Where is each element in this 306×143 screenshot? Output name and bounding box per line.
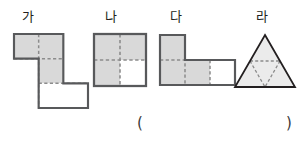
figure-label-da: 다	[170, 10, 182, 23]
figure-art-na	[94, 34, 146, 86]
answer-row: ( )	[0, 108, 306, 138]
cell-ga-1	[39, 34, 64, 59]
figure-art-ga	[14, 34, 88, 108]
cell-da-2	[185, 60, 210, 85]
figure-art-da	[160, 34, 235, 86]
triangle-fill-ra	[235, 35, 295, 87]
cell-da-1	[160, 60, 185, 85]
answer-close-paren: )	[286, 116, 292, 131]
cell-ga-0	[14, 34, 39, 59]
cell-ga-2	[39, 59, 64, 84]
figure-label-ga: 가	[22, 10, 34, 23]
worksheet-canvas: 가 나	[0, 0, 306, 143]
cell-na-1	[120, 34, 146, 60]
figure-label-ra: 라	[256, 10, 268, 23]
figure-art-ra	[232, 32, 298, 90]
cell-ga-3	[39, 83, 64, 108]
cell-da-0	[160, 35, 185, 60]
answer-open-paren: (	[137, 116, 143, 131]
figure-label-na: 나	[105, 10, 117, 23]
cell-na-3	[120, 60, 146, 86]
cell-na-0	[94, 34, 120, 60]
cell-na-2	[94, 60, 120, 86]
cell-ga-4	[63, 83, 88, 108]
